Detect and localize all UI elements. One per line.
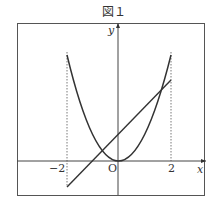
parabola-curve <box>67 55 171 161</box>
tick-label-minus-2: −2 <box>49 163 65 174</box>
origin-label: O <box>108 163 117 174</box>
tick-label-2: 2 <box>168 163 175 174</box>
figure-title: 図１ <box>102 6 126 18</box>
y-axis-label: y <box>108 25 114 36</box>
x-axis-label: x <box>197 164 203 175</box>
line-graph <box>67 80 171 187</box>
